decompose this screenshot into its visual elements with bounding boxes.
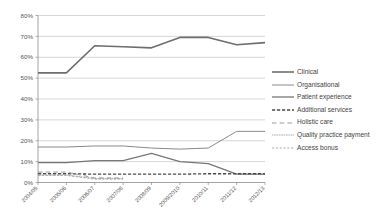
y-tick-label: 50% (21, 74, 34, 81)
x-axis-tick-labels: 2004/052005/062006/072007/082008/092009/… (20, 185, 266, 208)
legend-item-additional-services[interactable]: Additional services (272, 104, 390, 117)
legend-item-label: Clinical (297, 69, 318, 76)
legend-line-swatch (272, 80, 294, 90)
plot-svg: 0%10%20%30%40%50%60%70%80% 2004/052005/0… (0, 0, 275, 223)
legend-line-swatch (272, 143, 294, 153)
x-tick-label: 2007/08 (105, 185, 124, 204)
gridlines (38, 16, 265, 162)
legend-item-quality-practice-payment[interactable]: Quality practice payment (272, 129, 390, 142)
series-line-patient-experience (38, 153, 265, 174)
y-tick-label: 30% (21, 116, 34, 123)
x-tick-label: 2009/2010 (158, 185, 181, 208)
legend-line-swatch (272, 105, 294, 115)
y-tick-label: 80% (21, 12, 34, 19)
legend-line-swatch (272, 92, 294, 102)
y-axis-tick-labels: 0%10%20%30%40%50%60%70%80% (21, 12, 38, 186)
legend-line-swatch (272, 118, 294, 128)
y-tick-label: 70% (21, 33, 34, 40)
legend-line-swatch (272, 130, 294, 140)
x-tick-label: 2012/13 (247, 185, 266, 204)
legend-item-clinical[interactable]: Clinical (272, 66, 390, 79)
plot-area: 0%10%20%30%40%50%60%70%80% 2004/052005/0… (0, 0, 275, 223)
line-chart: 0%10%20%30%40%50%60%70%80% 2004/052005/0… (0, 0, 390, 223)
legend-item-label: Patient experience (297, 94, 352, 101)
x-tick-label: 2011/12 (219, 185, 237, 203)
x-tick-label: 2006/07 (77, 185, 96, 204)
x-tick-label: 2008/09 (134, 185, 153, 204)
data-series-group (38, 37, 265, 179)
legend-item-label: Quality practice payment (297, 132, 370, 139)
series-line-organisational (38, 131, 265, 149)
x-tick-label: 2005/06 (49, 185, 68, 204)
legend-item-label: Holistic care (297, 119, 333, 126)
x-tick-label: 2010/11 (191, 185, 209, 203)
legend-item-patient-experience[interactable]: Patient experience (272, 91, 390, 104)
legend-item-label: Organisational (297, 82, 340, 89)
legend-item-access-bonus[interactable]: Access bonus (272, 142, 390, 155)
x-tick-label: 2004/05 (20, 185, 39, 204)
legend-line-swatch (272, 67, 294, 77)
series-line-clinical (38, 37, 265, 72)
y-tick-label: 10% (21, 158, 34, 165)
legend-item-label: Additional services (297, 107, 352, 114)
legend-item-holistic-care[interactable]: Holistic care (272, 116, 390, 129)
y-tick-label: 40% (21, 95, 34, 102)
y-tick-label: 20% (21, 137, 34, 144)
legend-item-organisational[interactable]: Organisational (272, 79, 390, 92)
y-tick-label: 0% (24, 179, 33, 186)
y-tick-label: 60% (21, 53, 34, 60)
chart-legend: ClinicalOrganisationalPatient experience… (272, 66, 390, 154)
legend-item-label: Access bonus (297, 145, 338, 152)
